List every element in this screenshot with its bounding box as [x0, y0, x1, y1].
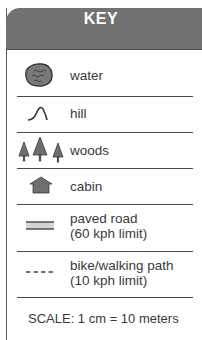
paved-road-icon [26, 221, 56, 231]
hill-icon [27, 103, 55, 123]
key-panel [6, 8, 202, 340]
divider [17, 251, 193, 252]
scale-text: SCALE: 1 cm = 10 meters [28, 311, 179, 326]
cabin-label: cabin [70, 179, 102, 194]
cabin-icon [29, 176, 53, 194]
divider [17, 168, 193, 169]
paved-road-label-line2: (60 kph limit) [70, 226, 147, 241]
woods-label: woods [70, 143, 109, 158]
divider [17, 132, 193, 133]
water-icon [24, 62, 54, 88]
key-title: KEY [0, 10, 202, 28]
paved-road-label-line1: paved road [70, 211, 147, 226]
water-label: water [70, 68, 103, 83]
paved-road-label: paved road (60 kph limit) [70, 211, 147, 241]
hill-label: hill [70, 106, 87, 121]
path-icon [26, 270, 56, 274]
path-label-line1: bike/walking path [70, 258, 174, 273]
woods-icon [16, 136, 70, 164]
divider [17, 96, 193, 97]
divider [17, 297, 193, 298]
path-label-line2: (10 kph limit) [70, 273, 174, 288]
divider [17, 204, 193, 205]
path-label: bike/walking path (10 kph limit) [70, 258, 174, 288]
